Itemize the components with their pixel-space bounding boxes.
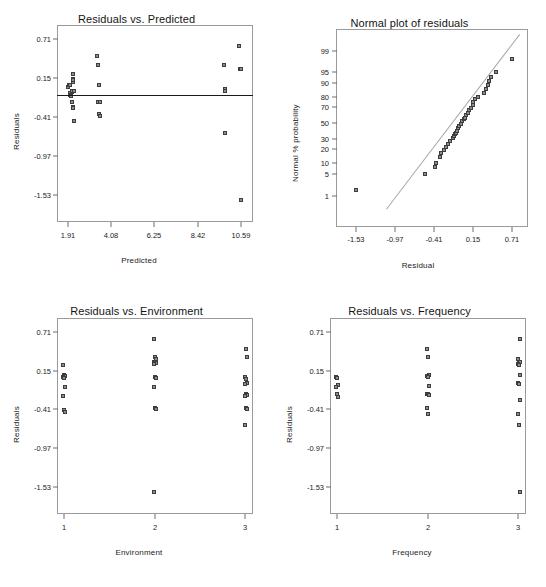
plot-area-residuals-vs-predicted: [58, 26, 252, 221]
zero-reference-line: [57, 95, 253, 96]
ytick-mark: [326, 448, 331, 449]
data-point-marker: [70, 100, 74, 104]
ytick-mark: [53, 195, 58, 196]
y-axis-title: Normal % probability: [291, 104, 300, 182]
ytick-label: -0.97: [13, 152, 51, 161]
data-point-marker: [489, 75, 493, 79]
data-point-marker: [98, 100, 102, 104]
panel-normal-plot-of-residuals: Normal plot of residuals 99 95 90 80 70 …: [273, 0, 546, 293]
data-point-marker: [223, 131, 227, 135]
xtick-label: 0.15: [466, 235, 481, 244]
xtick-mark: [245, 514, 246, 519]
data-point-marker: [427, 384, 431, 388]
data-point-marker: [154, 376, 158, 380]
panel-residuals-vs-predicted: Residuals vs. Predicted 0.71 0.15 -0.41 …: [0, 0, 273, 293]
plot-area-residuals-vs-environment: [58, 319, 252, 513]
x-axis-title: Frequency: [297, 548, 527, 557]
xtick-label: 10.59: [232, 231, 251, 240]
data-point-marker: [426, 412, 430, 416]
xtick-label: 6.25: [147, 231, 162, 240]
ytick-mark: [332, 71, 337, 72]
data-point-marker: [425, 406, 429, 410]
ytick-label: 30: [297, 135, 329, 144]
ytick-mark: [326, 370, 331, 371]
xtick-label: 4.08: [104, 231, 119, 240]
xtick-label: 3: [243, 523, 247, 532]
plot-title: Normal plot of residuals: [273, 17, 546, 29]
data-point-marker: [517, 363, 521, 367]
xtick-mark: [337, 514, 338, 519]
y-axis-title: Residuals: [12, 406, 21, 443]
xtick-mark: [473, 227, 474, 232]
data-point-marker: [71, 78, 75, 82]
ytick-label: 0.71: [13, 327, 51, 336]
data-point-marker: [239, 67, 243, 71]
ytick-label: -1.53: [286, 483, 324, 492]
ytick-mark: [332, 149, 337, 150]
xtick-mark: [518, 514, 519, 519]
ytick-mark: [53, 78, 58, 79]
data-point-marker: [72, 119, 76, 123]
ytick-label: 99: [297, 46, 329, 55]
data-point-marker: [152, 337, 156, 341]
xtick-mark: [155, 514, 156, 519]
xtick-label: 2: [153, 523, 157, 532]
plot-area-residuals-vs-frequency: [331, 319, 525, 513]
data-point-marker: [487, 79, 491, 83]
xtick-label: 0.71: [505, 235, 520, 244]
ytick-mark: [53, 448, 58, 449]
ytick-mark: [53, 39, 58, 40]
xtick-mark: [356, 227, 357, 232]
plot-title: Residuals vs. Predicted: [0, 13, 273, 25]
ytick-mark: [332, 106, 337, 107]
data-point-marker: [152, 385, 156, 389]
x-axis-title: Predicted: [24, 256, 254, 265]
data-point-marker: [518, 398, 522, 402]
ytick-label: 0.15: [286, 366, 324, 375]
plot-title: Residuals vs. Environment: [0, 305, 273, 317]
data-point-marker: [426, 375, 430, 379]
x-axis-title: Environment: [24, 548, 254, 557]
ytick-mark: [53, 331, 58, 332]
data-point-marker: [243, 423, 247, 427]
data-point-marker: [510, 57, 514, 61]
xtick-label: -0.97: [386, 235, 403, 244]
y-axis-title: Residuals: [12, 113, 21, 150]
ytick-mark: [53, 409, 58, 410]
data-point-marker: [516, 412, 520, 416]
ytick-label: 0.15: [13, 74, 51, 83]
ytick-label: -0.97: [286, 444, 324, 453]
data-point-marker: [484, 87, 488, 91]
ytick-label: 90: [297, 79, 329, 88]
data-point-marker: [245, 407, 249, 411]
data-point-marker: [517, 382, 521, 386]
data-point-marker: [518, 490, 522, 494]
ytick-label: 0.71: [13, 35, 51, 44]
ytick-label: 1: [297, 191, 329, 200]
xtick-mark: [154, 222, 155, 227]
xtick-label: 1: [62, 523, 66, 532]
ytick-mark: [53, 370, 58, 371]
ytick-label: 95: [297, 67, 329, 76]
xtick-label: 1: [335, 523, 339, 532]
data-point-marker: [152, 490, 156, 494]
ytick-label: 20: [297, 145, 329, 154]
data-point-marker: [494, 70, 498, 74]
data-point-marker: [152, 362, 156, 366]
xtick-mark: [428, 514, 429, 519]
data-point-marker: [482, 91, 486, 95]
ytick-mark: [53, 117, 58, 118]
data-point-marker: [62, 376, 66, 380]
xtick-label: 2: [426, 523, 430, 532]
data-point-marker: [71, 72, 75, 76]
xtick-mark: [111, 222, 112, 227]
data-point-marker: [95, 54, 99, 58]
data-point-marker: [222, 63, 226, 67]
x-axis-title: Residual: [303, 261, 533, 270]
xtick-mark: [512, 227, 513, 232]
data-point-marker: [334, 385, 338, 389]
data-point-marker: [154, 407, 158, 411]
data-point-marker: [426, 355, 430, 359]
ytick-label: 80: [297, 92, 329, 101]
data-point-marker: [245, 355, 249, 359]
